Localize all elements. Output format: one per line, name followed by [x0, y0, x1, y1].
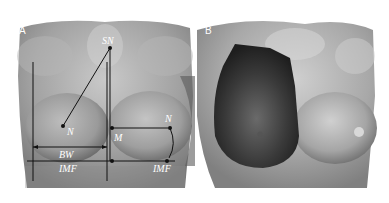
label-imf-left: IMF — [58, 163, 78, 174]
label-imf-right: IMF — [152, 163, 172, 174]
label-n-left: N — [66, 126, 75, 137]
label-m: M — [113, 132, 123, 143]
torso-render-b: B — [195, 16, 380, 188]
panel-a-torso-measurements: A SN N N M BW IMF IMF — [15, 16, 195, 188]
panel-label-a: A — [19, 25, 26, 36]
panel-label-b: B — [205, 25, 212, 36]
label-bw: BW — [59, 149, 75, 160]
torso-render-a: A SN N N M BW IMF IMF — [15, 16, 195, 188]
label-sn: SN — [102, 35, 115, 46]
panel-b-torso-overlay: B — [195, 16, 380, 188]
label-n-right: N — [164, 113, 173, 124]
